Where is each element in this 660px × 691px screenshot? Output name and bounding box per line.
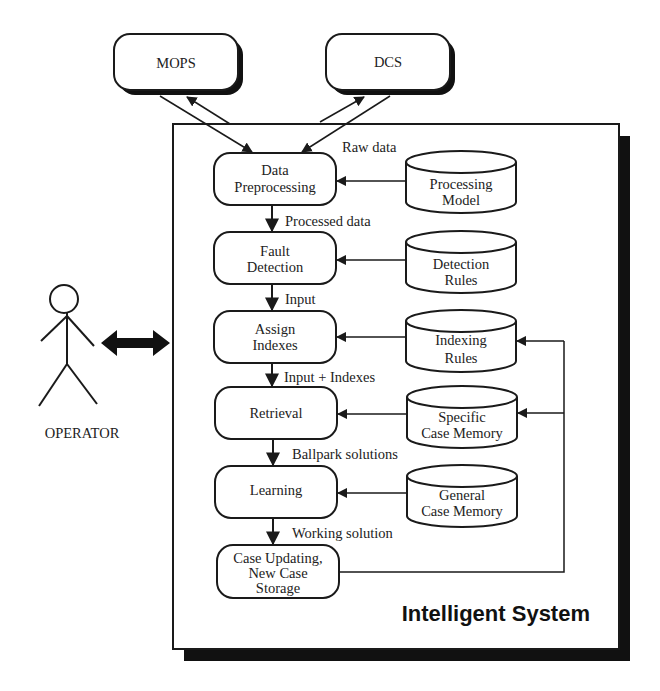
svg-text:Specific: Specific <box>438 409 486 425</box>
mops-label: MOPS <box>156 55 196 71</box>
svg-text:Detection: Detection <box>247 259 304 275</box>
flow-label-working-solution: Working solution <box>292 525 393 541</box>
svg-text:Rules: Rules <box>444 272 477 288</box>
svg-text:Preprocessing: Preprocessing <box>234 179 315 195</box>
mops-node[interactable]: MOPS <box>114 34 243 95</box>
flow-label-input-indexes: Input + Indexes <box>284 369 375 385</box>
svg-text:Learning: Learning <box>250 482 302 498</box>
bidirectional-arrow-icon <box>101 330 170 356</box>
process-fault-detection[interactable]: Fault Detection <box>214 232 336 284</box>
store-detection-rules[interactable]: Detection Rules <box>406 231 516 293</box>
operator-label: OPERATOR <box>45 425 120 441</box>
store-processing-model[interactable]: Processing Model <box>406 151 516 213</box>
dcs-node[interactable]: DCS <box>326 34 455 95</box>
svg-text:Case Updating,: Case Updating, <box>233 550 322 566</box>
svg-text:Detection: Detection <box>433 256 490 272</box>
svg-text:Case Memory: Case Memory <box>421 425 503 441</box>
flow-label-ballpark-solutions: Ballpark solutions <box>292 446 398 462</box>
system-title: Intelligent System <box>402 601 590 626</box>
svg-text:Data: Data <box>261 162 289 178</box>
svg-text:Processing: Processing <box>430 176 493 192</box>
flow-label-processed-data: Processed data <box>285 213 371 229</box>
svg-text:Storage: Storage <box>256 580 300 596</box>
dcs-label: DCS <box>374 54 402 70</box>
svg-text:Case Memory: Case Memory <box>421 503 503 519</box>
process-assign-indexes[interactable]: Assign Indexes <box>214 311 336 363</box>
flow-label-raw-data: Raw data <box>342 139 397 155</box>
svg-text:New Case: New Case <box>248 565 307 581</box>
svg-text:Indexes: Indexes <box>252 337 297 353</box>
store-indexing-rules[interactable]: Indexing Rules <box>406 310 516 372</box>
process-case-updating[interactable]: Case Updating, New Case Storage <box>217 545 339 598</box>
operator-figure[interactable] <box>39 285 97 406</box>
process-retrieval[interactable]: Retrieval <box>215 387 337 439</box>
svg-text:Rules: Rules <box>444 350 477 366</box>
svg-text:Assign: Assign <box>255 321 296 337</box>
store-specific-case-memory[interactable]: Specific Case Memory <box>407 386 517 448</box>
svg-text:Model: Model <box>442 192 480 208</box>
svg-text:Retrieval: Retrieval <box>249 405 302 421</box>
store-general-case-memory[interactable]: General Case Memory <box>407 465 517 527</box>
svg-text:Fault: Fault <box>260 243 290 259</box>
flow-label-input: Input <box>285 291 316 307</box>
operator-head-icon <box>50 285 78 313</box>
svg-text:Indexing: Indexing <box>435 332 487 348</box>
process-data-preprocessing[interactable]: Data Preprocessing <box>214 153 336 205</box>
process-learning[interactable]: Learning <box>215 466 337 518</box>
svg-text:General: General <box>439 487 485 503</box>
